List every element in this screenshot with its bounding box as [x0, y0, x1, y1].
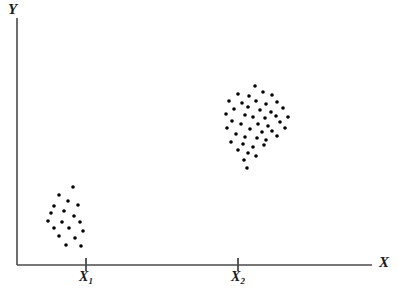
data-point	[255, 136, 259, 140]
data-point	[261, 90, 265, 94]
data-point	[245, 166, 249, 170]
data-point	[57, 193, 61, 197]
data-point	[240, 101, 244, 105]
data-point	[67, 226, 71, 230]
data-point	[227, 99, 231, 103]
data-point	[243, 113, 247, 117]
data-points	[46, 84, 290, 248]
data-point	[243, 135, 247, 139]
data-point	[254, 154, 258, 158]
data-point	[251, 145, 255, 149]
data-point	[66, 199, 70, 203]
data-point	[230, 119, 234, 123]
y-axis-label: Y	[8, 2, 17, 17]
data-point	[241, 142, 245, 146]
data-point	[264, 102, 268, 106]
scatter-plot-figure: Y X X1X2	[0, 0, 397, 299]
data-point	[275, 134, 279, 138]
plot-canvas	[0, 0, 397, 299]
series-cluster-1	[46, 185, 85, 248]
data-point	[60, 220, 64, 224]
data-point	[248, 127, 252, 131]
data-point	[256, 122, 260, 126]
data-point	[266, 124, 270, 128]
data-point	[52, 226, 56, 230]
data-point	[262, 143, 266, 147]
data-point	[251, 115, 255, 119]
data-point	[286, 115, 290, 119]
data-point	[232, 107, 236, 111]
x-tick-label-X2: X2	[231, 270, 245, 284]
data-point	[270, 93, 274, 97]
data-point	[264, 138, 268, 142]
data-point	[52, 204, 56, 208]
data-point	[76, 203, 80, 207]
data-point	[46, 219, 50, 223]
data-point	[236, 148, 240, 152]
data-point	[260, 130, 264, 134]
data-point	[254, 99, 258, 103]
data-point	[263, 116, 267, 120]
data-point	[78, 220, 82, 224]
data-point	[270, 129, 274, 133]
data-point	[283, 126, 287, 130]
data-point	[229, 140, 233, 144]
tick-label-base: X	[79, 269, 88, 284]
data-point	[73, 236, 77, 240]
x-axis-label: X	[379, 255, 389, 270]
data-point	[225, 126, 229, 130]
data-point	[281, 106, 285, 110]
data-point	[274, 114, 278, 118]
series-cluster-2	[224, 84, 290, 170]
data-point	[57, 234, 61, 238]
data-point	[253, 84, 257, 88]
data-point	[246, 105, 250, 109]
data-point	[258, 108, 262, 112]
data-point	[79, 244, 83, 248]
data-point	[275, 100, 279, 104]
x-tick-label-X1: X1	[79, 270, 93, 284]
data-point	[62, 209, 66, 213]
data-point	[71, 185, 75, 189]
data-point	[278, 120, 282, 124]
data-point	[246, 151, 250, 155]
data-point	[239, 122, 243, 126]
data-point	[49, 211, 53, 215]
data-point	[81, 229, 85, 233]
data-point	[224, 112, 228, 116]
tick-label-subscript: 1	[88, 276, 93, 286]
tick-label-base: X	[231, 269, 240, 284]
data-point	[64, 243, 68, 247]
data-point	[234, 132, 238, 136]
tick-label-subscript: 2	[240, 276, 245, 286]
data-point	[236, 92, 240, 96]
data-point	[242, 158, 246, 162]
data-point	[247, 94, 251, 98]
data-point	[269, 110, 273, 114]
data-point	[72, 214, 76, 218]
